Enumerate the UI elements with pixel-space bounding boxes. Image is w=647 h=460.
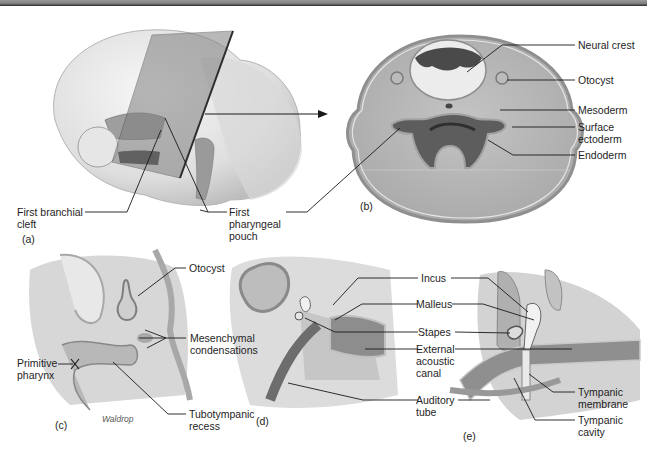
- label-tympanic-membrane: Tympanic membrane: [578, 386, 638, 410]
- label-endoderm: Endoderm: [578, 149, 626, 161]
- panel-tag-c: (c): [55, 419, 67, 431]
- label-external-acoustic-canal: External acoustic canal: [416, 343, 461, 379]
- label-primitive-pharynx: Primitive pharynx: [17, 357, 62, 381]
- panel-tag-b: (b): [360, 200, 373, 212]
- label-otocyst-b: Otocyst: [578, 74, 614, 86]
- label-mesoderm: Mesoderm: [578, 104, 628, 116]
- label-first-pharyngeal-pouch: First pharyngeal pouch: [229, 206, 289, 242]
- diagram-artwork: [0, 0, 647, 460]
- panel-c-otocyst-stage: [29, 250, 190, 410]
- label-stapes: Stapes: [418, 326, 451, 338]
- label-surface-ectoderm: Surface ectoderm: [578, 121, 638, 145]
- label-first-branchial-cleft: First branchial cleft: [17, 206, 87, 230]
- label-malleus: Malleus: [416, 298, 452, 310]
- label-otocyst-c: Otocyst: [189, 262, 225, 274]
- label-tubotympanic-recess: Tubotympanic recess: [189, 408, 251, 432]
- label-auditory-tube: Auditory tube: [416, 394, 461, 418]
- label-incus: Incus: [421, 272, 446, 284]
- illustrator-credit: Waldrop: [102, 413, 134, 425]
- arrowhead-icon: [318, 110, 328, 118]
- label-neural-crest: Neural crest: [578, 39, 635, 51]
- panel-tag-d: (d): [256, 415, 269, 427]
- panel-tag-a: (a): [22, 233, 35, 245]
- label-tympanic-cavity: Tympanic cavity: [578, 414, 638, 438]
- panel-a-embryo: [54, 30, 302, 206]
- panel-b-cross-section: [348, 36, 583, 222]
- label-mesenchymal-condensations: Mesenchymal condensations: [190, 332, 260, 356]
- panel-tag-e: (e): [463, 430, 476, 442]
